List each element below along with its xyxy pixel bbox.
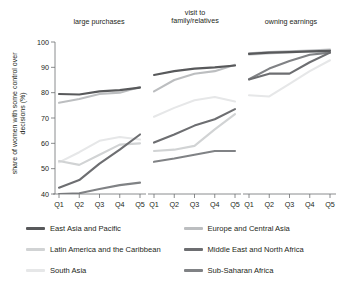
series-line <box>154 114 235 151</box>
x-tick-label: Q2 <box>74 200 84 209</box>
legend-label: Latin America and the Caribbean <box>50 245 161 254</box>
legend-swatch <box>26 269 45 272</box>
y-tick-label: 90 <box>41 63 49 72</box>
series-line <box>154 109 235 142</box>
legend-item: East Asia and Pacific <box>26 224 184 233</box>
legend-label: East Asia and Pacific <box>50 224 121 233</box>
legend-label: Middle East and North Africa <box>208 245 304 254</box>
x-tick-label: Q2 <box>169 200 179 209</box>
x-tick-label: Q4 <box>115 200 125 209</box>
x-tick-label: Q1 <box>54 200 64 209</box>
y-tick-label: 80 <box>41 88 49 97</box>
legend-swatch <box>26 227 45 230</box>
y-tick-label: 40 <box>41 190 49 199</box>
legend-swatch <box>184 248 203 251</box>
x-tick-label: Q5 <box>135 200 145 209</box>
x-tick-label: Q4 <box>210 200 220 209</box>
y-tick-label: 50 <box>41 164 49 173</box>
panel-series-group <box>154 65 235 162</box>
y-tick-label: 70 <box>41 114 49 123</box>
series-line <box>59 137 140 162</box>
y-tick-label: 60 <box>41 139 49 148</box>
x-tick-label: Q3 <box>285 200 295 209</box>
x-tick-label: Q5 <box>230 200 240 209</box>
chart-legend: East Asia and PacificEurope and Central … <box>0 218 347 286</box>
series-line <box>59 143 140 165</box>
legend-item: Middle East and North Africa <box>184 245 342 254</box>
x-tick-label: Q1 <box>149 200 159 209</box>
legend-swatch <box>26 248 45 251</box>
x-tick-label: Q3 <box>190 200 200 209</box>
x-tick-label: Q1 <box>244 200 254 209</box>
x-tick-label: Q5 <box>325 200 335 209</box>
y-tick-label: 100 <box>37 38 49 47</box>
series-line <box>154 151 235 162</box>
series-line <box>249 60 330 96</box>
chart-figure: share of women with some control over de… <box>0 0 347 289</box>
x-tick-label: Q3 <box>95 200 105 209</box>
legend-item: South Asia <box>26 266 184 275</box>
legend-label: Europe and Central Asia <box>208 224 290 233</box>
x-tick-label: Q2 <box>264 200 274 209</box>
x-tick-label: Q4 <box>305 200 315 209</box>
legend-swatch <box>184 269 203 272</box>
series-line <box>154 97 235 117</box>
legend-label: South Asia <box>50 266 86 275</box>
panel-series-group <box>59 87 140 194</box>
legend-item: Europe and Central Asia <box>184 224 342 233</box>
panel-series-group <box>249 50 330 97</box>
series-line <box>59 183 140 194</box>
legend-label: Sub-Saharan Africa <box>208 266 274 275</box>
legend-item: Sub-Saharan Africa <box>184 266 342 275</box>
legend-item: Latin America and the Caribbean <box>26 245 184 254</box>
series-line <box>59 134 140 187</box>
legend-swatch <box>184 227 203 230</box>
plot-area: 405060708090100Q1Q2Q3Q4Q5Q1Q2Q3Q4Q5Q1Q2Q… <box>0 0 347 218</box>
